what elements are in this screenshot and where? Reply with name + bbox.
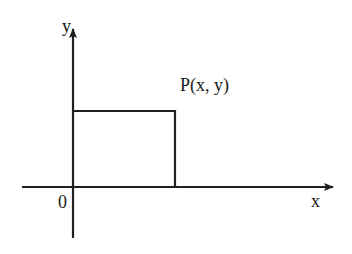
- x-axis-label: x: [311, 192, 320, 210]
- coordinate-diagram: [0, 0, 352, 254]
- y-axis-label: y: [62, 17, 71, 35]
- point-label: P(x, y): [180, 76, 229, 94]
- origin-label: 0: [58, 193, 67, 211]
